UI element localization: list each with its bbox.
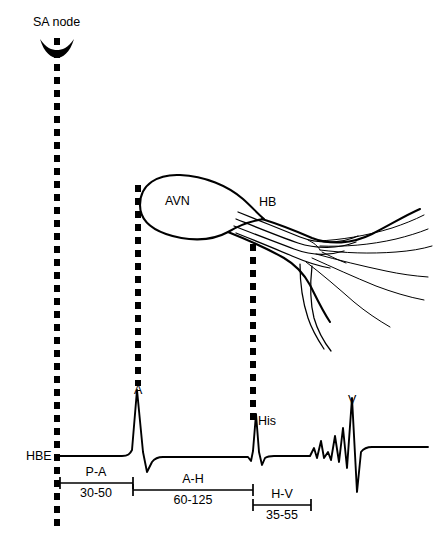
interval-caliper-p-a: P-A 30-50 xyxy=(60,465,133,500)
sa-node-group: SA node xyxy=(33,15,80,58)
his-deflection-label: His xyxy=(258,414,276,428)
diagram-canvas: SA node AVN xyxy=(0,0,435,545)
av-node-label: AVN xyxy=(165,194,190,208)
interval-caliper-h-v: H-V 35-55 xyxy=(253,487,311,522)
purkinje-fiber-2 xyxy=(320,229,428,246)
purkinje-fiber-6 xyxy=(306,262,390,327)
p-a-interval-value: 30-50 xyxy=(80,486,112,500)
sa-node-label: SA node xyxy=(33,15,80,29)
hbe-channel-label: HBE xyxy=(26,449,52,463)
his-bundle-group: HB xyxy=(228,195,432,351)
his-bundle-lower-border xyxy=(228,232,330,322)
v-wave-label: V xyxy=(348,393,357,407)
av-node-outline xyxy=(140,175,264,239)
his-bundle-label: HB xyxy=(259,195,276,209)
his-bundle-upper-border xyxy=(262,209,420,243)
purkinje-fiber-5 xyxy=(312,258,424,300)
a-wave-label: A xyxy=(134,383,143,397)
hbe-trace xyxy=(57,390,428,492)
purkinje-fiber-1 xyxy=(318,215,424,241)
h-v-interval-name: H-V xyxy=(271,487,293,501)
interval-caliper-a-h: A-H 60-125 xyxy=(133,472,253,507)
av-node-group: AVN xyxy=(140,175,264,239)
a-h-interval-value: 60-125 xyxy=(174,493,213,507)
a-h-interval-name: A-H xyxy=(182,472,204,486)
p-a-interval-name: P-A xyxy=(86,465,108,479)
his-bundle-electrogram-figure: SA node AVN xyxy=(0,0,435,545)
h-v-interval-value: 35-55 xyxy=(266,508,298,522)
interval-calipers-group: P-A 30-50 A-H 60-125 H-V 35-55 xyxy=(60,465,311,522)
